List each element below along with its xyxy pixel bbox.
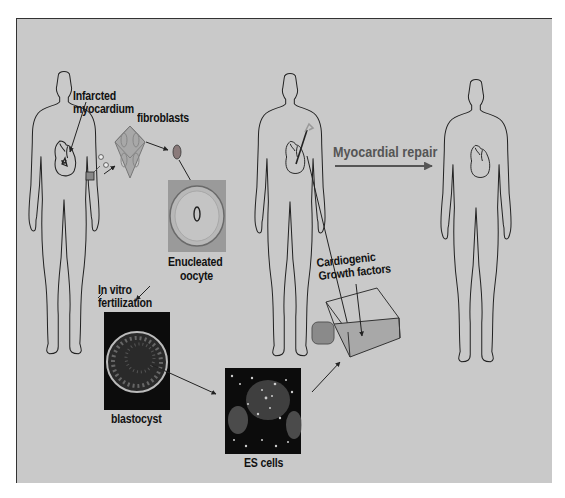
label-fibroblasts: fibroblasts <box>137 112 189 125</box>
label-fertilization: fertilization <box>98 297 152 310</box>
label-blastocyst: blastocyst <box>111 413 161 426</box>
label-oocyte: oocyte <box>180 270 213 283</box>
blastocyst-image <box>104 312 170 410</box>
label-myocardial-repair: Myocardial repair <box>333 144 437 160</box>
patient-figure-middle <box>255 73 350 355</box>
label-enucleated: Enucleated <box>168 256 223 269</box>
patient-figure-right <box>441 79 511 361</box>
culture-flask <box>312 284 400 357</box>
label-myocardium: myocardium <box>73 103 134 116</box>
oocyte-image <box>168 180 226 252</box>
label-es-cells: ES cells <box>244 457 283 470</box>
diagram-graphics <box>0 0 565 498</box>
es-cells-image <box>225 368 302 454</box>
